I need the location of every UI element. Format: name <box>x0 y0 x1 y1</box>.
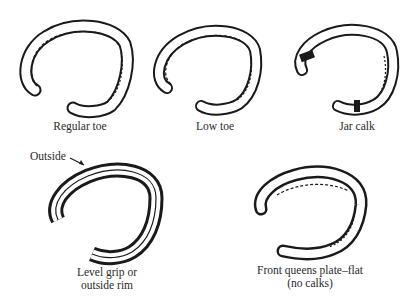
horseshoe-front-queens-plate-drawing <box>253 165 368 260</box>
horseshoe-low-toe <box>153 18 258 113</box>
label-front-queens-plate: Front queens plate–flat (no calks) <box>245 264 375 290</box>
label-low-toe: Low toe <box>180 120 250 133</box>
label-level-grip: Level grip or outside rim <box>62 266 152 292</box>
label-line: Jar calk <box>339 120 374 132</box>
label-line: Level grip or <box>62 266 152 279</box>
label-line: outside rim <box>62 279 152 292</box>
horseshoe-level-grip <box>48 162 163 262</box>
label-regular-toe: Regular toe <box>36 120 124 133</box>
label-line: (no calks) <box>245 277 375 290</box>
label-line: Regular toe <box>53 120 106 132</box>
horseshoe-jar-calk <box>292 18 397 113</box>
jar-calk-rear <box>354 100 360 112</box>
horseshoe-jar-calk-drawing <box>292 18 397 113</box>
label-jar-calk: Jar calk <box>322 120 392 133</box>
label-line: Front queens plate–flat <box>245 264 375 277</box>
horseshoe-regular-toe-drawing <box>15 12 125 112</box>
label-line: Low toe <box>196 120 234 132</box>
callout-outside: Outside <box>30 150 66 162</box>
horseshoe-low-toe-drawing <box>153 18 258 113</box>
horseshoe-front-queens-plate <box>253 165 368 260</box>
horseshoe-regular-toe <box>15 12 125 112</box>
callout-text: Outside <box>30 150 66 162</box>
horseshoe-level-grip-drawing <box>48 162 163 262</box>
